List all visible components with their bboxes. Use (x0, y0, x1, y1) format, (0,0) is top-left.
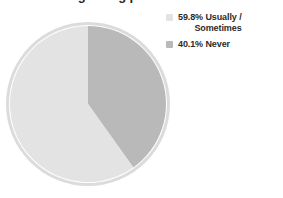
legend-label-line-1: 40.1% Never (178, 39, 230, 50)
chart-legend: 59.8% Usually / Sometimes 40.1% Never (166, 12, 282, 56)
pie-chart-svg (6, 11, 170, 198)
legend-item-never[interactable]: 40.1% Never (166, 39, 282, 50)
pie-chart (6, 11, 170, 198)
legend-label-line-2: Sometimes (178, 23, 242, 34)
legend-label: 59.8% Usually / Sometimes (178, 12, 242, 33)
chart-canvas: Pre-existing eating problems 59.8% Usual… (0, 0, 283, 198)
pie-slice-group (10, 26, 166, 182)
legend-item-usually-sometimes[interactable]: 59.8% Usually / Sometimes (166, 12, 282, 33)
legend-swatch-icon (166, 14, 173, 21)
legend-label-line-1: 59.8% Usually / (178, 12, 242, 23)
chart-title: Pre-existing eating problems (0, 0, 200, 3)
legend-label: 40.1% Never (178, 39, 230, 50)
legend-swatch-icon (166, 41, 173, 48)
